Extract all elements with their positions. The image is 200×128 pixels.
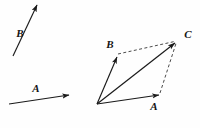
vector-b-given-label: B bbox=[15, 27, 23, 39]
vector-diagram-canvas: B A B C A bbox=[0, 0, 200, 128]
vertex-b-label: B bbox=[105, 38, 113, 50]
vertex-a-label: A bbox=[149, 100, 157, 112]
vertex-c-label: C bbox=[184, 28, 192, 40]
vector-a-given-label: A bbox=[31, 82, 39, 94]
vector-diagram-figure: B A B C A bbox=[0, 0, 200, 128]
